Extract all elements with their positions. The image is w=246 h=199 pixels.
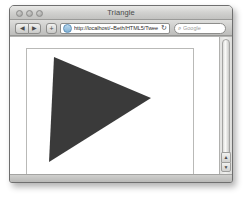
window-bottom-bar — [10, 174, 232, 182]
navigation-buttons: ◀ ▶ — [15, 23, 41, 34]
scroll-up-button[interactable]: ▲ — [221, 152, 231, 162]
reload-icon[interactable]: ↻ — [161, 24, 167, 32]
web-page — [10, 37, 219, 174]
back-button[interactable]: ◀ — [15, 23, 28, 34]
triangle-svg — [27, 49, 193, 174]
scrollbar-arrows: ▲ ▼ — [221, 152, 231, 173]
scroll-down-button[interactable]: ▼ — [221, 162, 231, 172]
globe-icon — [63, 24, 72, 33]
triangle-canvas — [26, 48, 194, 174]
scrollbar-thumb[interactable] — [222, 39, 230, 157]
content-area: ▲ ▼ — [10, 36, 232, 174]
vertical-scrollbar[interactable]: ▲ ▼ — [219, 37, 232, 174]
forward-button[interactable]: ▶ — [28, 23, 41, 34]
address-input[interactable]: http://localhost/~Beth/HTML5/Twee — [74, 24, 160, 32]
triangle-shape — [49, 57, 151, 162]
browser-window: Triangle ◀ ▶ + http://localhost/~Beth/HT… — [9, 5, 233, 183]
search-icon: ⌕ — [178, 24, 181, 32]
title-bar[interactable]: Triangle — [10, 6, 232, 20]
add-bookmark-button[interactable]: + — [46, 23, 57, 34]
page-title: Triangle — [10, 8, 232, 18]
screenshot-root: Triangle ◀ ▶ + http://localhost/~Beth/HT… — [0, 0, 246, 199]
address-bar[interactable]: http://localhost/~Beth/HTML5/Twee ↻ — [60, 23, 170, 34]
search-input[interactable]: Google — [183, 24, 201, 32]
search-field[interactable]: ⌕ Google — [174, 23, 226, 34]
browser-toolbar: ◀ ▶ + http://localhost/~Beth/HTML5/Twee … — [10, 20, 232, 36]
